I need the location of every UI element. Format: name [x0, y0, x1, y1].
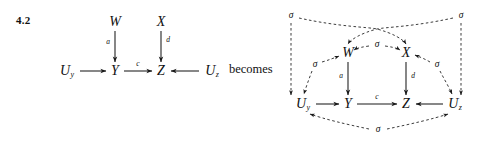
node-Y: Y [111, 64, 119, 78]
node-Uy-r: Uy [296, 97, 310, 112]
node-Uy: Uy [60, 64, 74, 79]
conf-middle-to-X [385, 46, 400, 50]
conf-right-to-Uz [440, 71, 452, 94]
sigma-top-left: σ [289, 11, 294, 21]
conf-bottom-to-Uz [387, 114, 448, 129]
edge-label-a: a [106, 38, 110, 46]
node-Uz: Uz [205, 64, 219, 79]
sigma-top-right: σ [459, 11, 464, 21]
conf-left-to-Uy [304, 71, 312, 94]
node-X: X [157, 15, 166, 29]
edge-label-d: d [166, 36, 170, 44]
conf-left-to-W [322, 56, 339, 62]
exercise-number: 4.2 [16, 14, 30, 26]
sigma-bottom: σ [376, 125, 381, 135]
conf-right-to-X [415, 55, 430, 62]
node-W: W [109, 15, 121, 29]
node-X-r: X [402, 46, 411, 60]
node-Uz-r: Uz [448, 97, 462, 112]
sigma-left: σ [313, 60, 318, 70]
right-diagram-edges [316, 62, 443, 104]
edge-label-c: c [136, 60, 139, 68]
edge-label-d-r: d [411, 72, 415, 80]
conf-topright-to-W [348, 18, 453, 44]
node-Y-r: Y [344, 97, 352, 111]
edge-label-c-r: c [375, 93, 378, 101]
sigma-middle: σ [375, 40, 380, 50]
sigma-right: σ [435, 60, 440, 70]
node-W-r: W [342, 46, 354, 60]
conf-middle-to-W [354, 46, 369, 50]
figure-canvas: 4.2 becomes [0, 0, 478, 141]
edge-label-a-r: a [339, 72, 343, 80]
node-Z-r: Z [402, 97, 410, 111]
conf-bottom-to-Uy [310, 114, 369, 129]
conf-topleft-to-X [299, 18, 406, 44]
becomes-text: becomes [229, 62, 273, 77]
node-Z: Z [157, 64, 165, 78]
